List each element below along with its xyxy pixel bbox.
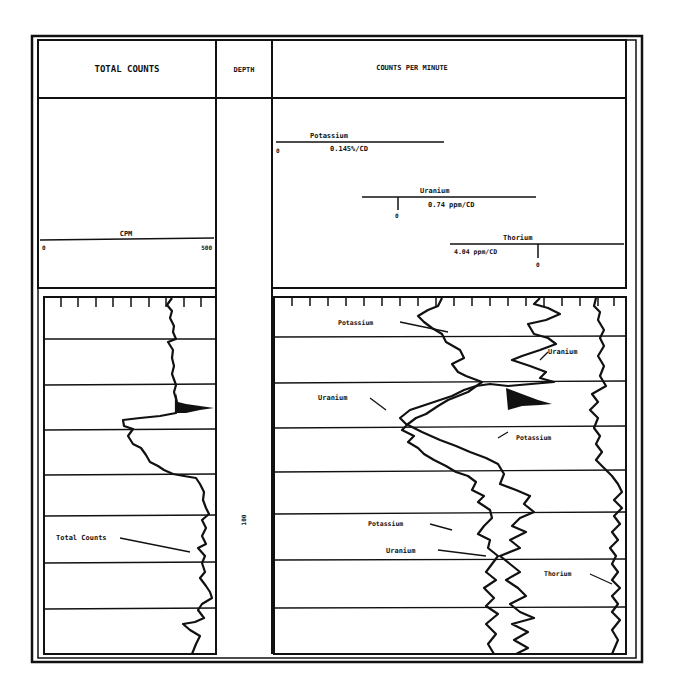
well-log-figure: TOTAL COUNTS DEPTH COUNTS PER MINUTE CPM… — [0, 0, 678, 692]
annotation-uranium-right: Uranium — [548, 348, 578, 356]
uranium-scale-name: Uranium — [420, 187, 450, 195]
total-counts-title: TOTAL COUNTS — [94, 64, 159, 74]
counts-per-minute-ticks — [292, 297, 614, 306]
annotation-thorium-lower: Thorium — [544, 570, 571, 578]
total-counts-scale: CPM 0 500 — [40, 230, 214, 251]
thorium-scale-name: Thorium — [503, 234, 533, 242]
uranium-scale: Uranium 0 0.74 ppm/CD — [362, 187, 536, 219]
counts-per-minute-gridlines — [274, 336, 626, 608]
counts-per-minute-title: COUNTS PER MINUTE — [376, 64, 448, 72]
potassium-scale-value: 0.145%/CD — [330, 145, 368, 153]
annotation-potassium-upper: Potassium — [338, 319, 373, 327]
annotation-potassium-mid: Potassium — [516, 434, 551, 442]
thorium-scale-value: 4.04 ppm/CD — [454, 248, 497, 256]
annotation-total-counts: Total Counts — [56, 534, 107, 542]
thorium-curve — [590, 298, 622, 654]
annotation-uranium-lower: Uranium — [386, 547, 416, 555]
thorium-marker: 0 — [536, 261, 540, 268]
cpm-right-value: 500 — [201, 244, 212, 251]
uranium-scale-value: 0.74 ppm/CD — [428, 201, 474, 209]
potassium-scale: Potassium 0 0.145%/CD — [276, 132, 444, 154]
depth-title: DEPTH — [233, 66, 254, 74]
total-counts-anomaly-fill — [176, 393, 214, 413]
thorium-scale: Thorium 4.04 ppm/CD 0 — [450, 234, 624, 268]
annotations — [120, 322, 612, 584]
total-counts-ticks — [61, 297, 201, 307]
potassium-curve — [402, 298, 498, 654]
scale-row — [38, 98, 626, 288]
uranium-anomaly-fill — [506, 388, 552, 410]
total-counts-curve — [123, 298, 214, 654]
potassium-scale-name: Potassium — [310, 132, 348, 140]
annotation-uranium-left: Uranium — [318, 394, 348, 402]
depth-marker: 100 — [240, 514, 247, 525]
potassium-left-marker: 0 — [276, 147, 280, 154]
cpm-label: CPM — [120, 230, 133, 238]
cpm-left-value: 0 — [42, 244, 46, 251]
uranium-marker: 0 — [395, 212, 399, 219]
annotation-potassium-lower: Potassium — [368, 520, 403, 528]
uranium-curve — [400, 298, 560, 654]
total-counts-gridlines — [44, 339, 216, 609]
